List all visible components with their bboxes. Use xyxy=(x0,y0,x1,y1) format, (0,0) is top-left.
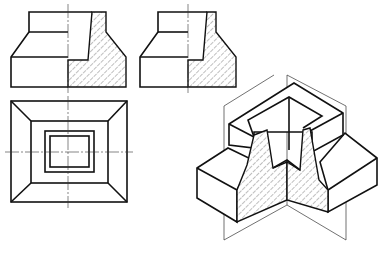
front-section-hatch xyxy=(68,12,126,87)
top-chamfer-br xyxy=(108,183,127,202)
top-chamfer-tl xyxy=(11,101,31,121)
drawing-canvas xyxy=(0,0,385,253)
top-slot-outer xyxy=(45,131,94,172)
top-slot-inner xyxy=(50,136,89,167)
top-chamfer-bl xyxy=(11,183,31,202)
side-section-hatch xyxy=(188,12,236,87)
top-view xyxy=(5,96,133,208)
isometric-view xyxy=(197,75,377,240)
front-view xyxy=(11,4,126,93)
top-outer-rect xyxy=(11,101,127,202)
top-chamfer-tr xyxy=(108,101,127,121)
iso-upper-block xyxy=(229,83,343,152)
side-view xyxy=(140,4,236,93)
